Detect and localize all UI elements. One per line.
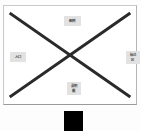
label-badge-left[interactable]: 入口 xyxy=(10,52,26,62)
black-block xyxy=(64,111,83,131)
label-badge-bottom[interactable]: 说明 框 xyxy=(67,82,81,95)
label-badge-right[interactable]: 标注 区 xyxy=(126,51,140,64)
label-badge-top[interactable]: 图例 xyxy=(64,16,81,26)
diagram-panel: 图例 入口 标注 区 说明 框 xyxy=(3,5,137,105)
diagram-canvas: 图例 入口 标注 区 说明 框 xyxy=(0,0,141,131)
